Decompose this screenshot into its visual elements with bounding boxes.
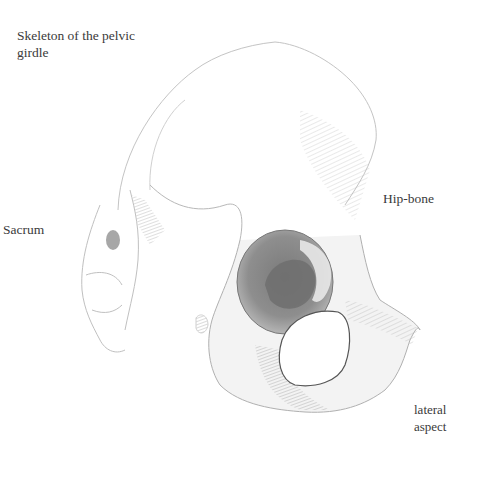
view-label: lateral aspect: [414, 401, 482, 435]
illustration-canvas: Skeleton of the pelvic girdle Sacrum Hip…: [0, 0, 482, 491]
sacrum-bone: [82, 190, 139, 352]
pelvis-drawing: [0, 0, 482, 491]
sacral-foramen: [106, 230, 120, 250]
figure-title: Skeleton of the pelvic girdle: [17, 27, 157, 61]
sacroiliac-shading: [132, 195, 165, 245]
sacrum-label: Sacrum: [3, 221, 44, 238]
spine-process: [196, 315, 208, 333]
hip-bone-label: Hip-bone: [383, 190, 434, 207]
iliac-shading: [300, 110, 370, 220]
